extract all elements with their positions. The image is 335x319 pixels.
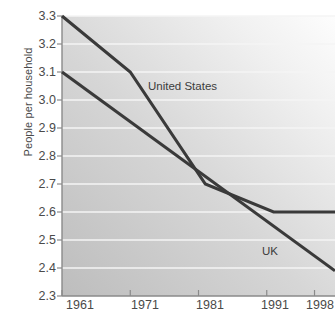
plot-area	[0, 0, 335, 319]
series-annotation-uk: UK	[262, 245, 278, 257]
chart-container: People per household 3.3 3.2 3.1 3.0 2.9…	[0, 0, 335, 319]
series-annotation-united-states: United States	[148, 80, 217, 92]
y-axis-ticks	[57, 16, 62, 296]
